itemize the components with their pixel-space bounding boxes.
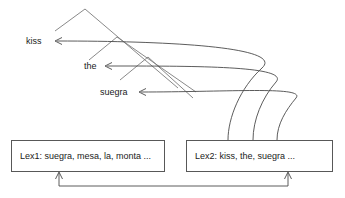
word-label-the: the [84, 62, 97, 71]
tree-segment-apex-right [85, 9, 178, 88]
insertion-links [57, 41, 297, 140]
lexicon-box-lex1: Lex1: suegra, mesa, la, monta ... [11, 140, 165, 172]
tree-segment-node3-left [120, 57, 148, 80]
lexicon-box-lex2: Lex2: kiss, the, suegra ... [186, 140, 333, 172]
tree-segment-apex-left [55, 9, 85, 31]
feedback-path [59, 173, 288, 186]
lexicon-box-lex2-label: Lex2: kiss, the, suegra ... [195, 152, 295, 161]
link-curve-the [107, 66, 277, 140]
word-label-suegra: suegra [100, 88, 128, 97]
tree-structure [55, 9, 196, 98]
diagram-canvas: kiss the suegra Lex1: suegra, mesa, la, … [0, 0, 345, 198]
lexicon-feedback-connector [56, 172, 292, 186]
lexicon-box-lex1-label: Lex1: suegra, mesa, la, monta ... [20, 152, 151, 161]
word-label-kiss: kiss [26, 37, 42, 46]
tree-segment-node2-left [89, 37, 117, 60]
link-curve-suegra [141, 91, 297, 141]
